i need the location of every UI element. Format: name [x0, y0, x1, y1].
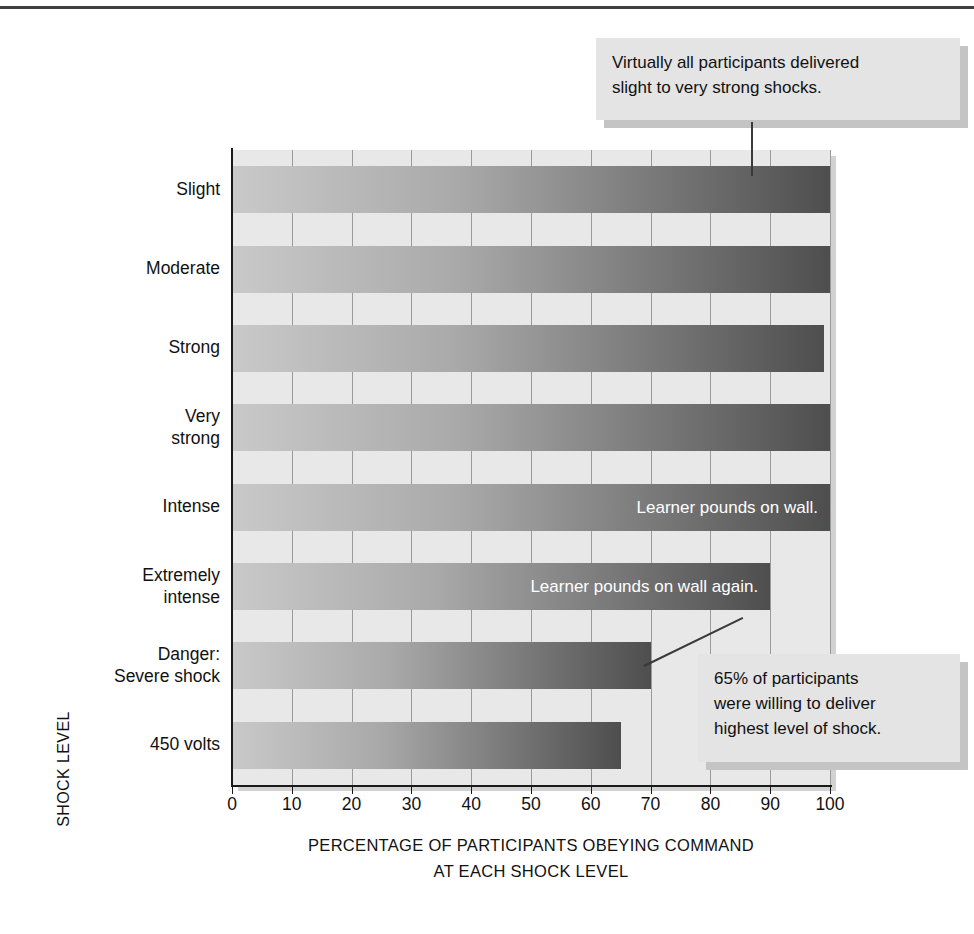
x-axis-tick-label: 100 — [800, 794, 860, 815]
category-label: Extremelyintense — [10, 564, 220, 608]
x-axis-tick — [471, 785, 472, 794]
x-axis-tick-label: 20 — [322, 794, 382, 815]
x-axis-tick-label: 40 — [441, 794, 501, 815]
bar — [232, 325, 824, 372]
bottom-callout-line-1: 65% of participants — [714, 666, 946, 691]
bottom-callout: 65% of participants were willing to deli… — [698, 654, 960, 762]
x-axis-tick — [531, 785, 532, 794]
x-axis-title-line-1: PERCENTAGE OF PARTICIPANTS OBEYING COMMA… — [180, 832, 882, 858]
y-axis-line — [231, 148, 233, 787]
x-axis-tick-label: 80 — [680, 794, 740, 815]
x-axis-tick-label: 90 — [740, 794, 800, 815]
x-axis-title-line-2: AT EACH SHOCK LEVEL — [180, 858, 882, 884]
top-callout-leader-line — [751, 122, 753, 176]
x-axis-tick — [411, 785, 412, 794]
top-callout: Virtually all participants delivered sli… — [596, 38, 960, 120]
category-label-line: Very — [10, 405, 220, 427]
category-label: Danger:Severe shock — [10, 643, 220, 687]
x-axis-tick-label: 0 — [202, 794, 262, 815]
category-label-line: intense — [10, 586, 220, 608]
bar — [232, 404, 830, 451]
bar — [232, 246, 830, 293]
x-axis-tick — [651, 785, 652, 794]
x-axis-title: PERCENTAGE OF PARTICIPANTS OBEYING COMMA… — [180, 832, 882, 884]
bar — [232, 722, 621, 769]
category-label-line: strong — [10, 427, 220, 449]
category-label-line: Extremely — [10, 564, 220, 586]
x-axis-tick — [591, 785, 592, 794]
bottom-callout-line-2: were willing to deliver — [714, 691, 946, 716]
bar-chart-figure: Learner pounds on wall.Learner pounds on… — [0, 0, 974, 934]
x-axis-tick-label: 60 — [561, 794, 621, 815]
category-label: Verystrong — [10, 405, 220, 449]
x-axis-tick-label: 50 — [501, 794, 561, 815]
category-label: Strong — [10, 336, 220, 358]
category-label-line: Intense — [10, 495, 220, 517]
bar — [232, 642, 651, 689]
top-callout-line-2: slight to very strong shocks. — [612, 75, 946, 100]
category-label: 450 volts — [10, 733, 220, 755]
category-label-line: Strong — [10, 336, 220, 358]
category-label: Intense — [10, 495, 220, 517]
category-label-line: 450 volts — [10, 733, 220, 755]
bar-annotation: Learner pounds on wall. — [232, 484, 818, 531]
x-axis-tick — [710, 785, 711, 794]
x-axis-tick-label: 30 — [381, 794, 441, 815]
x-axis-tick-label: 10 — [262, 794, 322, 815]
bar-annotation: Learner pounds on wall again. — [232, 563, 758, 610]
category-label-line: Danger: — [10, 643, 220, 665]
category-label: Slight — [10, 178, 220, 200]
category-label-line: Severe shock — [10, 665, 220, 687]
category-label-line: Slight — [10, 178, 220, 200]
top-callout-line-1: Virtually all participants delivered — [612, 50, 946, 75]
bar — [232, 166, 830, 213]
bottom-callout-line-3: highest level of shock. — [714, 716, 946, 741]
x-axis-tick — [830, 785, 831, 794]
y-axis-title: SHOCK LEVEL — [55, 669, 73, 869]
x-axis-tick — [232, 785, 233, 794]
category-label: Moderate — [10, 257, 220, 279]
x-axis-tick — [352, 785, 353, 794]
x-axis-tick — [292, 785, 293, 794]
x-axis-tick — [770, 785, 771, 794]
x-axis-tick-label: 70 — [621, 794, 681, 815]
category-label-line: Moderate — [10, 257, 220, 279]
